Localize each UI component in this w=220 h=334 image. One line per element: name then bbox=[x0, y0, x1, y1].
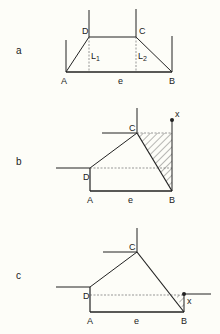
point-c: C bbox=[129, 123, 136, 133]
point-c: C bbox=[129, 242, 136, 252]
panel-a: a A B D C e L1 L2 bbox=[16, 9, 175, 86]
marker-x: x bbox=[187, 296, 192, 306]
base-label: e bbox=[118, 76, 123, 86]
panel-c: c x A B D C e bbox=[16, 228, 211, 326]
side-dc bbox=[90, 252, 137, 287]
length-l2: L2 bbox=[138, 51, 147, 62]
base-label: e bbox=[134, 316, 139, 326]
base-label: e bbox=[128, 195, 133, 205]
point-a: A bbox=[87, 316, 93, 326]
point-a: A bbox=[61, 76, 67, 86]
point-b: B bbox=[181, 316, 187, 326]
point-d: D bbox=[83, 172, 90, 182]
marker-dot bbox=[170, 118, 174, 122]
side-cb bbox=[137, 252, 184, 312]
point-d: D bbox=[82, 26, 89, 36]
length-l1: L1 bbox=[91, 51, 100, 62]
panel-label: b bbox=[16, 156, 22, 167]
point-b: B bbox=[169, 195, 175, 205]
marker-dot bbox=[182, 292, 186, 296]
panel-b: b x A B D C e bbox=[16, 108, 180, 205]
point-c: C bbox=[139, 26, 146, 36]
diagram-canvas: a A B D C e L1 L2 b x A B D bbox=[0, 0, 220, 334]
panel-label: a bbox=[16, 45, 22, 56]
side-dc bbox=[90, 133, 137, 168]
point-b: B bbox=[169, 76, 175, 86]
point-a: A bbox=[87, 195, 93, 205]
panel-label: c bbox=[16, 270, 21, 281]
marker-x: x bbox=[175, 109, 180, 119]
point-d: D bbox=[83, 291, 90, 301]
side-ad bbox=[66, 37, 89, 72]
